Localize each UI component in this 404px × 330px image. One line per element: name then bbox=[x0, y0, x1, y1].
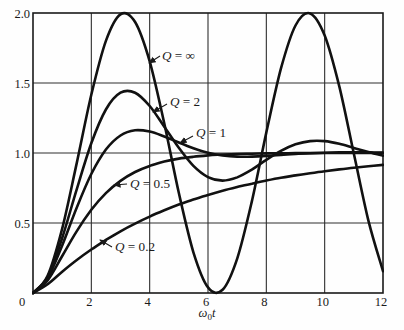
x-tick-label: 10 bbox=[316, 295, 329, 309]
chart-canvas: 0246810120.51.01.52.0ω0tQ = ∞Q = 2Q = 1Q… bbox=[0, 0, 404, 330]
x-tick-label: 12 bbox=[375, 295, 388, 309]
annotation-label: Q = 0.5 bbox=[130, 176, 170, 191]
x-tick-label: 2 bbox=[86, 295, 92, 309]
figure-background bbox=[0, 0, 404, 330]
x-tick-label: 0 bbox=[19, 295, 25, 309]
y-tick-label: 0.5 bbox=[14, 217, 30, 231]
x-tick-label: 8 bbox=[261, 295, 267, 309]
annotation-label: Q = 0.2 bbox=[115, 239, 155, 254]
annotation-label: Q = 2 bbox=[170, 94, 200, 109]
annotation-label: Q = ∞ bbox=[162, 48, 195, 63]
x-axis-label: ω0t bbox=[199, 306, 216, 322]
x-tick-label: 4 bbox=[145, 295, 152, 309]
y-tick-label: 1.5 bbox=[14, 77, 30, 91]
step-response-figure: 0246810120.51.01.52.0ω0tQ = ∞Q = 2Q = 1Q… bbox=[0, 0, 404, 330]
y-tick-label: 2.0 bbox=[14, 7, 30, 21]
annotation-label: Q = 1 bbox=[196, 125, 226, 140]
y-tick-label: 1.0 bbox=[14, 147, 30, 161]
